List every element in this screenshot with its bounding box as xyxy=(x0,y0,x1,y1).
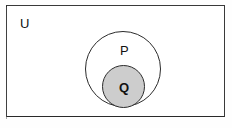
universal-set-rectangle: U P Q xyxy=(6,5,225,117)
set-q-circle: Q xyxy=(102,65,145,108)
venn-diagram: U P Q xyxy=(0,0,232,128)
set-q-label: Q xyxy=(119,81,129,94)
universal-set-label: U xyxy=(20,17,29,30)
set-p-label: P xyxy=(120,44,129,57)
